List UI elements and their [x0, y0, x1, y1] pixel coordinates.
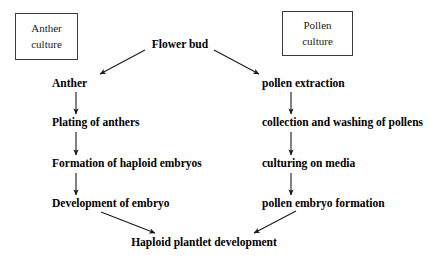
node-pollen-embryo-formation: pollen embryo formation [262, 198, 385, 210]
node-development-of-embryo: Development of embryo [52, 198, 170, 210]
edge-development-to-haploid-plantlet [101, 212, 155, 233]
node-pollen-extraction: pollen extraction [262, 78, 345, 90]
anther-culture-box: Anther culture [15, 13, 78, 60]
pollen-culture-line-2: culture [302, 34, 333, 50]
node-collection-and-washing-of-pollens: collection and washing of pollens [262, 117, 423, 129]
node-flower-bud: Flower bud [152, 39, 208, 51]
edge-flower-bud-to-anther [100, 50, 145, 74]
node-haploid-plantlet-development: Haploid plantlet development [131, 237, 277, 249]
edge-flower-bud-to-pollen-extraction [214, 50, 259, 74]
node-plating-of-anthers: Plating of anthers [52, 117, 140, 129]
pollen-culture-line-1: Pollen [303, 18, 331, 34]
node-formation-of-haploid-embryos: Formation of haploid embryos [52, 158, 202, 170]
anther-culture-line-1: Anther [31, 21, 62, 37]
flowchart-canvas: Anther culture Pollen culture Flower bud… [0, 0, 445, 259]
anther-culture-line-2: culture [31, 37, 62, 53]
node-anther: Anther [52, 78, 87, 90]
edge-pollen-embryo-to-haploid-plantlet [254, 211, 296, 233]
pollen-culture-box: Pollen culture [282, 11, 353, 56]
node-culturing-on-media: culturing on media [262, 158, 355, 170]
